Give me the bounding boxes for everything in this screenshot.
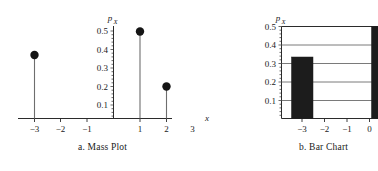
bar-chart-ytick-label: 0.3 <box>265 59 277 69</box>
bar-chart-ytick-label: 0.5 <box>265 22 277 32</box>
bar-chart-bar <box>372 27 378 119</box>
mass-plot-ytick-label: 0.4 <box>97 45 109 55</box>
mass-plot-xtick-label: 1 <box>138 124 143 134</box>
mass-plot-x-axis-title: x <box>204 113 209 123</box>
mass-plot-xtick-label: −2 <box>56 124 66 134</box>
bar-chart-bar <box>292 57 314 119</box>
caption-bar-chart: b. Bar Chart <box>299 142 348 152</box>
mass-plot-ytick-label: 0.2 <box>97 82 108 92</box>
mass-plot-y-axis-title-main: p <box>107 13 113 23</box>
bar-chart-xtick-label: −3 <box>297 124 307 134</box>
bar-chart-ytick-label: 0.2 <box>265 77 276 87</box>
figure-container: 0.5 0.4 0.3 0.2 0.1 p X −3 −2 −1 1 <box>0 0 378 171</box>
bar-chart-group: 0.5 0.4 0.3 0.2 0.1 p X −3 −2 −1 0 <box>265 13 378 134</box>
bar-chart-ytick-label: 0.4 <box>265 40 277 50</box>
bar-chart-xtick-label: 0 <box>367 124 372 134</box>
mass-plot-xtick-label: 2 <box>164 124 169 134</box>
bar-chart-x-ticks <box>302 119 370 123</box>
bar-chart-y-axis-title-sub: X <box>281 18 287 25</box>
mass-plot-ytick-label: 0.3 <box>97 63 109 73</box>
mass-plot-dot <box>162 82 170 90</box>
mass-plot-xtick-label: −3 <box>30 124 40 134</box>
mass-plot-datapoint <box>136 27 144 118</box>
mass-plot-ytick-label: 0.1 <box>97 100 108 110</box>
bar-chart-xtick-label: −2 <box>320 124 330 134</box>
mass-plot-group: 0.5 0.4 0.3 0.2 0.1 p X −3 −2 −1 1 <box>18 13 209 134</box>
bar-chart-y-axis-title-main: p <box>275 13 281 23</box>
bar-chart-xtick-label: −1 <box>342 124 352 134</box>
mass-plot-datapoint <box>30 51 38 119</box>
mass-plot-y-axis-title-sub: X <box>113 18 119 25</box>
bar-chart-y-axis-title: p X <box>275 13 287 25</box>
mass-plot-x-ticks <box>35 119 167 123</box>
mass-plot-y-axis-title: p X <box>107 13 119 25</box>
mass-plot-dot <box>30 51 38 59</box>
mass-plot-ytick-label: 0.5 <box>97 26 109 36</box>
mass-plot-datapoint <box>162 82 170 118</box>
mass-plot-xtick-label: 3 <box>190 124 195 134</box>
caption-mass-plot: a. Mass Plot <box>78 142 127 152</box>
bar-chart-ytick-label: 0.1 <box>265 96 276 106</box>
mass-plot-xtick-label: −1 <box>82 124 92 134</box>
mass-plot-dot <box>136 27 144 35</box>
